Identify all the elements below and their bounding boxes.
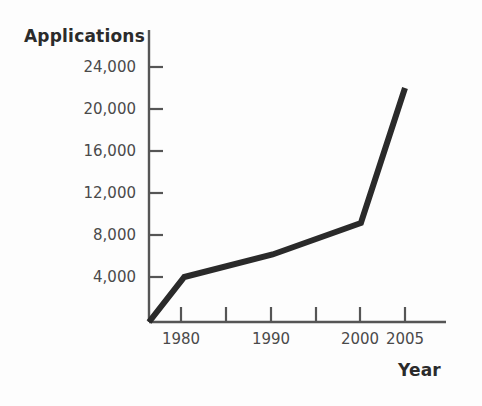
line-chart: Applications Year 24,000 20,000 16,000 1…	[0, 0, 482, 406]
plot-area	[0, 0, 482, 406]
y-axis-ticks	[149, 67, 163, 277]
x-axis-ticks	[181, 307, 405, 322]
data-series-applications	[149, 88, 405, 322]
